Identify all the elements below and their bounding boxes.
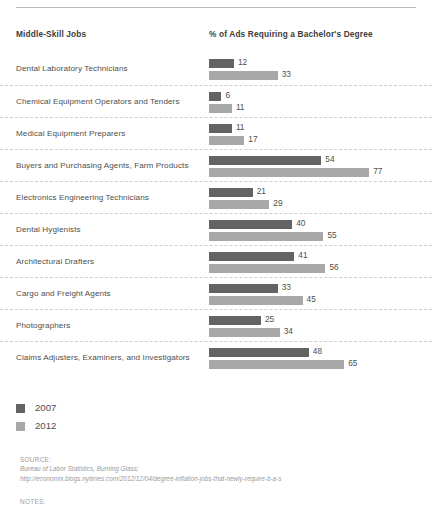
row-category-label: Dental Laboratory Technicians [16, 53, 128, 85]
bar-value-label: 11 [236, 102, 245, 112]
bar-value-label: 29 [273, 198, 282, 208]
chart-row: Dental Hygienists4055 [0, 213, 432, 245]
row-bar-group: 2534 [209, 310, 432, 342]
bar-rect [209, 59, 234, 68]
chart-rows: Dental Laboratory Technicians1233Chemica… [0, 53, 432, 373]
bar-rect [209, 232, 323, 241]
chart-row: Photographers2534 [0, 309, 432, 341]
row-category-label: Architectural Drafters [16, 246, 94, 278]
chart-row: Architectural Drafters4156 [0, 245, 432, 277]
row-bar-group: 4865 [209, 342, 432, 374]
chart-page: Middle-Skill Jobs % of Ads Requiring a B… [0, 0, 432, 513]
row-category-label: Chemical Equipment Operators and Tenders [16, 86, 180, 118]
bar-rect [209, 168, 369, 177]
chart-row: Medical Equipment Preparers1117 [0, 117, 432, 149]
bar-value-label: 45 [307, 294, 316, 304]
bar-rect [209, 188, 253, 197]
column-headers: Middle-Skill Jobs % of Ads Requiring a B… [0, 29, 432, 43]
row-bar-group: 4055 [209, 214, 432, 246]
bar-value-label: 41 [298, 250, 307, 260]
row-category-label: Photographers [16, 310, 70, 342]
bar-value-label: 6 [225, 90, 230, 100]
source-line-publisher: Bureau of Labor Statistics, Burning Glas… [20, 464, 410, 474]
notes-title: NOTES: [20, 498, 46, 505]
source-title: SOURCE: [20, 455, 410, 464]
source-block: SOURCE: Bureau of Labor Statistics, Burn… [20, 455, 410, 483]
bar-value-label: 33 [282, 69, 291, 79]
bar-rect [209, 220, 292, 229]
bar-rect [209, 264, 325, 273]
bar-value-label: 40 [296, 218, 305, 228]
legend-item-label: 2007 [35, 400, 56, 416]
row-bar-group: 2129 [209, 182, 432, 214]
bar-value-label: 34 [284, 326, 293, 336]
bar-rect [209, 348, 309, 357]
row-category-label: Claims Adjusters, Examiners, and Investi… [16, 342, 190, 374]
bar-rect [209, 296, 303, 305]
bar-rect [209, 136, 244, 145]
chart-row: Cargo and Freight Agents3345 [0, 277, 432, 309]
bar-value-label: 12 [238, 57, 247, 67]
bar-rect [209, 252, 294, 261]
legend-swatch-2007 [16, 404, 25, 413]
row-bar-group: 4156 [209, 246, 432, 278]
row-bar-group: 3345 [209, 278, 432, 310]
bar-rect [209, 200, 269, 209]
row-category-label: Electronics Engineering Technicians [16, 182, 149, 214]
bar-rect [209, 92, 221, 101]
row-category-label: Dental Hygienists [16, 214, 81, 246]
bar-rect [209, 328, 280, 337]
bar-rect [209, 156, 321, 165]
chart-row: Chemical Equipment Operators and Tenders… [0, 85, 432, 117]
right-column-title: % of Ads Requiring a Bachelor's Degree [209, 29, 373, 39]
bar-value-label: 48 [313, 346, 322, 356]
row-bar-group: 611 [209, 86, 432, 118]
source-line-url[interactable]: http://economix.blogs.nytimes.com/2012/1… [20, 474, 410, 484]
bar-value-label: 11 [236, 122, 245, 132]
row-bar-group: 1233 [209, 53, 432, 85]
chart-row: Claims Adjusters, Examiners, and Investi… [0, 341, 432, 373]
row-bar-group: 5477 [209, 150, 432, 182]
bar-value-label: 54 [325, 154, 334, 164]
bar-value-label: 21 [257, 186, 266, 196]
top-divider-rule [16, 7, 416, 8]
bar-rect [209, 284, 278, 293]
bar-rect [209, 360, 344, 369]
legend-item-label: 2012 [35, 418, 56, 434]
bar-value-label: 77 [373, 166, 382, 176]
bar-value-label: 33 [282, 282, 291, 292]
bar-rect [209, 124, 232, 133]
bar-value-label: 17 [248, 134, 257, 144]
row-category-label: Buyers and Purchasing Agents, Farm Produ… [16, 150, 189, 182]
bar-rect [209, 71, 278, 80]
legend-swatch-2012 [16, 422, 25, 431]
bar-value-label: 56 [329, 262, 338, 272]
bar-value-label: 65 [348, 358, 357, 368]
bar-rect [209, 104, 232, 113]
chart-row: Electronics Engineering Technicians2129 [0, 181, 432, 213]
left-column-title: Middle-Skill Jobs [16, 29, 86, 39]
chart-row: Dental Laboratory Technicians1233 [0, 53, 432, 85]
row-category-label: Cargo and Freight Agents [16, 278, 111, 310]
bar-rect [209, 316, 261, 325]
bar-value-label: 55 [327, 230, 336, 240]
bar-value-label: 25 [265, 314, 274, 324]
row-bar-group: 1117 [209, 118, 432, 150]
row-category-label: Medical Equipment Preparers [16, 118, 125, 150]
chart-row: Buyers and Purchasing Agents, Farm Produ… [0, 149, 432, 181]
